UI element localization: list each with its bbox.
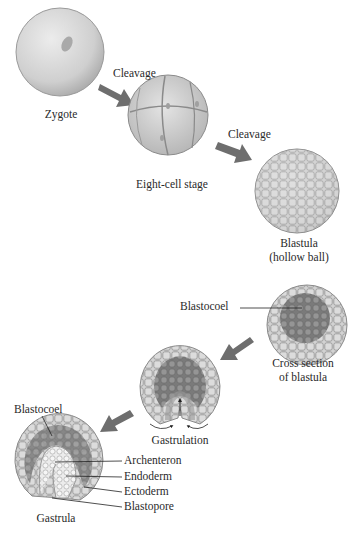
label-archenteron: Archenteron: [124, 454, 181, 467]
eight-cell-illustration: [128, 75, 208, 155]
label-cleavage-1: Cleavage: [113, 67, 156, 80]
blastula-illustration: [255, 149, 339, 233]
label-zygote: Zygote: [45, 108, 78, 121]
arrow-icon: [215, 142, 252, 163]
label-endoderm: Endoderm: [124, 470, 172, 483]
label-cross-section: Cross section: [272, 357, 334, 370]
label-blastopore: Blastopore: [124, 500, 174, 513]
label-hollow-ball: (hollow ball): [269, 251, 329, 264]
label-gastrula: Gastrula: [37, 512, 76, 525]
label-of-blastula: of blastula: [279, 371, 327, 384]
label-cleavage-2: Cleavage: [228, 128, 271, 141]
label-gastrulation: Gastrulation: [152, 434, 209, 447]
zygote-illustration: [16, 8, 104, 96]
blastula-cross-section-illustration: [240, 285, 347, 365]
arrow-icon: [98, 84, 134, 107]
label-blastocoel-2: Blastocoel: [14, 403, 63, 416]
label-eight-cell: Eight-cell stage: [136, 178, 208, 191]
label-ectoderm: Ectoderm: [124, 485, 169, 498]
arrow-icon: [100, 410, 134, 432]
gastrulation-illustration: [140, 346, 220, 429]
label-blastocoel-1: Blastocoel: [180, 300, 229, 313]
label-blastula: Blastula: [280, 237, 318, 250]
arrow-icon: [220, 337, 254, 360]
